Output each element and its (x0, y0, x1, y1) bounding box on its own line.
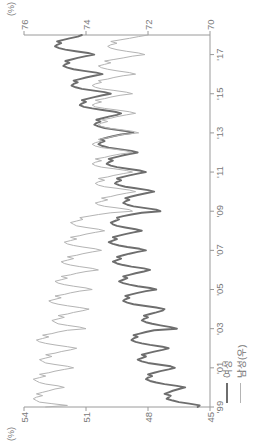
right-axis-unit-label: (%) (6, 2, 16, 16)
x-axis-tick-label: '09 (214, 205, 225, 217)
x-axis-tick-label: '13 (214, 127, 225, 139)
y-axis-left-tick-label: 54 (19, 412, 30, 423)
x-axis-tick-label: '07 (214, 244, 225, 256)
legend-line-swatch-icon (240, 383, 241, 403)
x-axis-tick-label: '17 (214, 48, 225, 60)
legend-line-swatch-icon (226, 383, 228, 403)
legend-label: 여성 (220, 360, 234, 378)
legend-label: 남성(우) (234, 345, 248, 378)
legend-item[interactable]: 여성 (220, 345, 233, 403)
series-lines (33, 35, 199, 407)
chart-legend: 여성남성(우) (220, 345, 248, 403)
left-axis-unit-label: (%) (6, 427, 16, 441)
y-axis-left-tick-label: 45 (205, 412, 216, 423)
y-axis-left-tick-label: 48 (143, 412, 154, 423)
plot-area: 45485154 70727476 '99'01'03'05'07'09'11'… (24, 35, 210, 407)
x-axis-tick-label: '05 (214, 283, 225, 295)
chart-svg (24, 35, 210, 407)
chart-figure: (%) (%) 45485154 70727476 '99'01'03'05'0… (0, 0, 261, 443)
y-axis-right-tick-label: 72 (143, 19, 154, 30)
y-axis-right-tick-label: 76 (19, 19, 30, 30)
legend-item[interactable]: 남성(우) (234, 345, 247, 403)
y-axis-right-tick-label: 70 (205, 19, 216, 30)
y-axis-right-tick-label: 74 (81, 19, 92, 30)
x-axis-tick-label: '15 (214, 88, 225, 100)
x-axis-tick-label: '11 (214, 166, 225, 178)
rotated-chart-wrapper: (%) (%) 45485154 70727476 '99'01'03'05'0… (0, 0, 261, 443)
x-axis-tick-label: '03 (214, 322, 225, 334)
y-axis-left-tick-label: 51 (81, 412, 92, 423)
